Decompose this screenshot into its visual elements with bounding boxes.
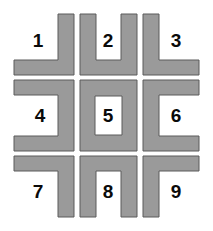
- shape-grid-figure: 123456789: [0, 0, 213, 231]
- cell-label-1: 1: [28, 31, 48, 50]
- cell-label-4: 4: [30, 106, 50, 125]
- cell-label-7: 7: [28, 182, 48, 201]
- cell-label-8: 8: [98, 182, 118, 201]
- cell-label-3: 3: [166, 31, 186, 50]
- cell-label-9: 9: [166, 182, 186, 201]
- cell-label-5: 5: [98, 106, 118, 125]
- cell-label-2: 2: [98, 31, 118, 50]
- cell-label-6: 6: [166, 106, 186, 125]
